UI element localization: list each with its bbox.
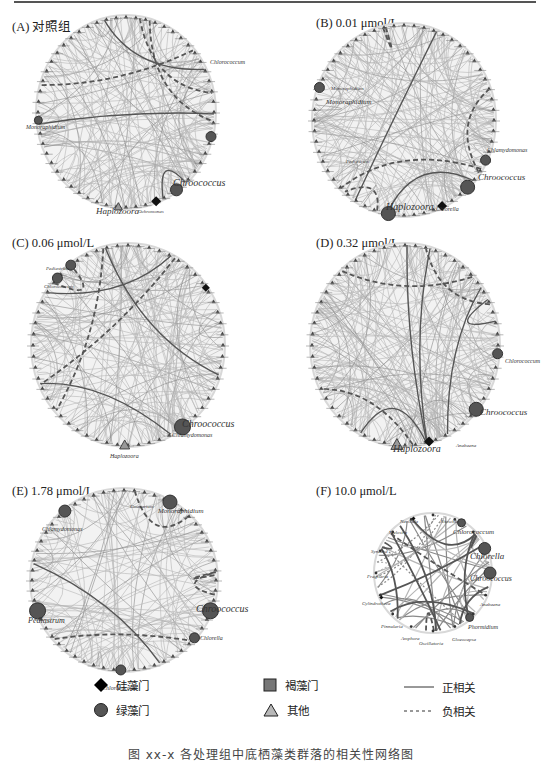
taxon-node (453, 625, 456, 628)
taxon-node (391, 613, 394, 616)
taxon-label: Anabaena (479, 602, 501, 607)
diamond-icon (94, 678, 108, 692)
legend-label: 其他 (287, 702, 309, 718)
legend-label: 硅藻门 (116, 677, 149, 693)
triangle-icon (263, 703, 279, 717)
legend-label: 负相关 (442, 703, 475, 719)
taxon-label: Melosira (388, 530, 408, 535)
taxon-label: Chlorococcum (453, 528, 494, 536)
square-icon (263, 678, 277, 692)
circle-icon (94, 703, 108, 717)
legend-item-others: 其他 (263, 702, 309, 718)
legend-label: 正相关 (442, 679, 475, 695)
legend-item-negative: 负相关 (404, 703, 475, 719)
taxon-node (410, 625, 413, 628)
taxon-label: Nitzschia (439, 519, 459, 524)
taxon-label: Chlorella (470, 551, 505, 561)
taxon-node (484, 594, 487, 597)
legend-label: 褐藻门 (285, 677, 318, 693)
legend-item-diatoms: 硅藻门 (94, 677, 149, 693)
taxon-label: Phormidium (467, 624, 499, 630)
taxon-node-chlorococcum (458, 519, 466, 527)
taxon-label: Chroococcus (470, 574, 512, 583)
taxon-node-phormidium (466, 613, 474, 621)
dashed-line-icon (404, 706, 434, 716)
taxon-node (432, 514, 435, 517)
legend-label: 绿藻门 (116, 702, 149, 718)
legend-item-positive: 正相关 (404, 679, 475, 695)
taxon-label: Navicula (399, 519, 419, 524)
taxon-label: Oscillatoria (419, 641, 444, 646)
legend-item-phaeophyta: 褐藻门 (263, 677, 318, 693)
taxon-label: Pinnularia (380, 624, 403, 629)
solid-line-icon (404, 682, 434, 692)
taxon-label: Cylindrotheca (362, 601, 391, 606)
taxon-node (432, 630, 435, 633)
legend-item-chlorophyta: 绿藻门 (94, 702, 149, 718)
taxon-label: Amphora (400, 636, 420, 641)
taxon-label: Fragilaria (366, 574, 389, 579)
positive-edge (382, 543, 392, 549)
taxon-label: Synedra (371, 549, 388, 554)
figure-caption: 图 xx-x 各处理组中底栖藻类群落的相关性网络图 (0, 745, 542, 762)
taxon-label: Gloeocapsa (452, 637, 476, 642)
